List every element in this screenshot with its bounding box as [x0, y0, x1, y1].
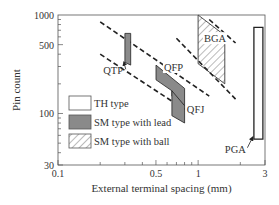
- region-pga: [254, 27, 263, 139]
- upper-left-trend: [100, 22, 209, 96]
- annotation-bga: BGA: [204, 33, 227, 44]
- annotation-qfp: QFP: [164, 62, 183, 73]
- legend-swatch-gray: [69, 115, 91, 129]
- x-tick-label: 0.5: [150, 168, 163, 179]
- y-tick-label: 100: [39, 108, 54, 119]
- x-tick-label: 1: [196, 168, 201, 179]
- annotation-qfj: QFJ: [187, 104, 205, 115]
- legend-label: TH type: [94, 98, 129, 109]
- legend: TH typeSM type with leadSM type with bal…: [69, 96, 172, 148]
- legend-swatch-empty: [69, 96, 91, 110]
- annotation-arrow: [247, 137, 252, 148]
- y-tick-label: 30: [44, 160, 54, 171]
- annotation-pga: PGA: [225, 144, 246, 155]
- x-axis-label: External terminal spacing (mm): [91, 182, 232, 195]
- region-qtp: [125, 33, 131, 65]
- x-tick-label: 3: [263, 168, 268, 179]
- y-axis-label: Pin count: [10, 69, 22, 111]
- y-tick-label: 500: [39, 40, 54, 51]
- annotation-qtp: QTP: [103, 65, 123, 76]
- chart: 0.10.513301005001000 External terminal s…: [0, 0, 279, 205]
- y-tick-label: 1000: [34, 10, 54, 21]
- legend-label: SM type with lead: [94, 117, 172, 128]
- region-bga: [198, 15, 225, 84]
- legend-label: SM type with ball: [94, 136, 170, 147]
- legend-swatch-hatch: [69, 134, 91, 148]
